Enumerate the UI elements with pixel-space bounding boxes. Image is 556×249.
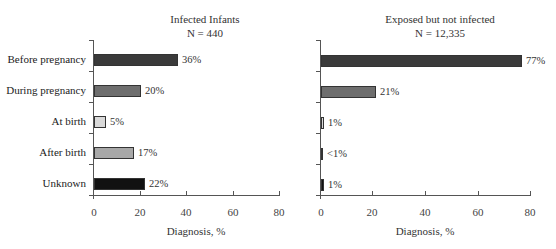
value-label: 1% (328, 179, 342, 190)
x-axis-label: Diagnosis, % (136, 225, 256, 237)
bar-unknown (94, 178, 145, 190)
bar-unknown (321, 179, 324, 191)
left-chart-subtitle: N = 440 (130, 26, 280, 40)
bar-during-pregnancy (94, 85, 141, 97)
x-tick-label: 40 (410, 206, 440, 218)
x-tick (320, 195, 321, 199)
x-tick-label: 80 (515, 206, 545, 218)
x-tick (93, 195, 94, 199)
x-tick (233, 191, 234, 195)
y-tick (316, 71, 320, 72)
x-tick (478, 191, 479, 195)
x-axis (89, 195, 280, 196)
y-tick (89, 133, 93, 134)
x-tick-label: 40 (171, 206, 201, 218)
y-tick (316, 102, 320, 103)
value-label: 1% (328, 117, 342, 128)
x-tick (425, 191, 426, 195)
y-tick (316, 164, 320, 165)
right-chart-subtitle: N = 12,335 (355, 26, 525, 40)
category-label: Before pregnancy (8, 53, 87, 65)
value-label: 36% (182, 54, 201, 65)
x-axis-label: Diagnosis, % (365, 225, 485, 237)
y-tick (89, 40, 93, 41)
value-label: 20% (145, 85, 164, 96)
x-tick (530, 191, 531, 195)
y-tick (316, 133, 320, 134)
y-tick (89, 102, 93, 103)
x-axis (316, 195, 531, 196)
x-tick-label: 60 (463, 206, 493, 218)
bar-before-pregnancy (94, 54, 178, 66)
x-tick (186, 191, 187, 195)
y-tick (316, 40, 320, 41)
x-tick-label: 80 (264, 206, 294, 218)
x-tick-label: 0 (79, 206, 109, 218)
x-tick-label: 20 (125, 206, 155, 218)
bar-at-birth (94, 116, 106, 128)
x-tick (372, 191, 373, 195)
value-label: <1% (327, 148, 347, 159)
x-tick (279, 191, 280, 195)
bar-during-pregnancy (321, 86, 376, 98)
category-label: Unknown (43, 177, 86, 189)
right-chart-title: Exposed but not infected (355, 12, 525, 26)
value-label: 22% (149, 178, 168, 189)
category-label: At birth (51, 115, 86, 127)
x-tick-label: 60 (218, 206, 248, 218)
x-tick-label: 20 (357, 206, 387, 218)
x-tick-label: 0 (306, 206, 336, 218)
x-tick (140, 191, 141, 195)
value-label: 17% (138, 147, 157, 158)
bar-before-pregnancy (321, 55, 522, 67)
value-label: 5% (110, 116, 124, 127)
left-chart-title: Infected Infants (130, 12, 280, 26)
bar-after-birth (94, 147, 134, 159)
value-label: 21% (380, 86, 399, 97)
y-tick (89, 164, 93, 165)
bar-after-birth (321, 148, 323, 160)
value-label: 77% (526, 55, 545, 66)
category-label: During pregnancy (6, 84, 86, 96)
category-label: After birth (39, 146, 86, 158)
bar-at-birth (321, 117, 324, 129)
y-tick (89, 71, 93, 72)
